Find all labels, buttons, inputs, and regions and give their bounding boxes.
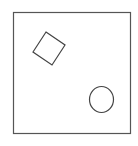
circle-shape bbox=[90, 87, 114, 113]
frame-square bbox=[14, 13, 131, 134]
diagram-canvas bbox=[0, 0, 138, 146]
rotated-square-shape bbox=[33, 32, 65, 65]
